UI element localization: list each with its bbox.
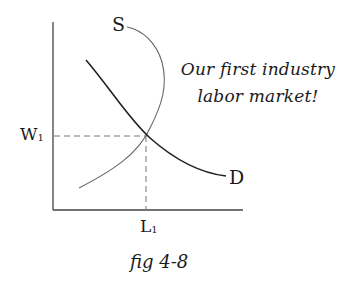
demand-label: D <box>229 166 244 188</box>
wage-label-main: W <box>20 124 37 144</box>
wage-label-sub: 1 <box>37 132 43 143</box>
annotation-line-2: labor market! <box>178 83 338 110</box>
labor-label-main: L <box>140 216 151 236</box>
wage-axis-label: W1 <box>20 124 44 144</box>
figure-caption: fig 4-8 <box>130 251 188 272</box>
labor-label-sub: 1 <box>151 224 157 235</box>
supply-label: S <box>112 13 125 35</box>
annotation-line-1: Our first industry <box>178 56 338 83</box>
supply-curve <box>79 27 164 188</box>
labor-axis-label: L1 <box>140 216 158 236</box>
annotation: Our first industry labor market! <box>178 56 338 110</box>
